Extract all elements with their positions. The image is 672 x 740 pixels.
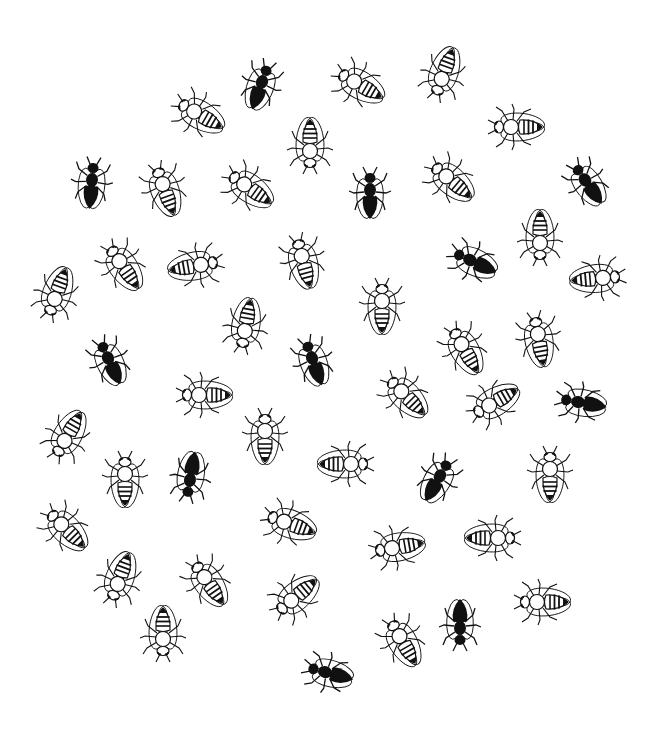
striped-bee-icon bbox=[566, 253, 628, 304]
striped-bee-icon bbox=[287, 116, 333, 174]
striped-bee-icon bbox=[87, 229, 158, 303]
striped-bee-icon bbox=[488, 104, 546, 150]
striped-bee-icon bbox=[133, 155, 196, 225]
dark-ant-icon bbox=[165, 447, 215, 506]
striped-bee-icon bbox=[25, 258, 88, 328]
striped-bee-icon bbox=[369, 359, 442, 432]
striped-bee-icon bbox=[514, 579, 572, 625]
striped-bee-icon bbox=[163, 80, 236, 149]
striped-bee-icon bbox=[323, 50, 396, 119]
dark-ant-icon bbox=[552, 377, 611, 427]
dark-ant-icon bbox=[439, 599, 481, 651]
striped-bee-icon bbox=[274, 228, 333, 296]
dark-ant-icon bbox=[407, 446, 470, 512]
striped-bee-icon bbox=[527, 446, 573, 504]
dark-ant-icon bbox=[297, 646, 358, 700]
striped-bee-icon bbox=[517, 208, 563, 266]
striped-bee-icon bbox=[140, 604, 186, 662]
striped-bee-icon bbox=[414, 144, 488, 216]
striped-bee-icon bbox=[430, 313, 499, 386]
insect-illustration bbox=[0, 0, 672, 740]
striped-bee-icon bbox=[511, 307, 566, 372]
striped-bee-icon bbox=[163, 238, 228, 293]
dark-ant-icon bbox=[349, 167, 391, 219]
dark-ant-icon bbox=[555, 149, 619, 216]
striped-bee-icon bbox=[176, 372, 234, 418]
dark-ant-icon bbox=[79, 328, 139, 393]
dark-ant-icon bbox=[440, 231, 505, 291]
striped-bee-icon bbox=[218, 293, 273, 358]
dark-ant-icon bbox=[232, 53, 289, 117]
striped-bee-icon bbox=[365, 519, 430, 574]
striped-bee-icon bbox=[368, 605, 437, 678]
striped-bee-icon bbox=[316, 441, 374, 487]
striped-bee-icon bbox=[255, 492, 325, 555]
striped-bee-icon bbox=[259, 561, 333, 633]
striped-bee-icon bbox=[359, 278, 405, 336]
insect-swarm bbox=[25, 38, 628, 699]
striped-bee-icon bbox=[172, 545, 243, 619]
striped-bee-icon bbox=[463, 515, 521, 561]
dark-ant-icon bbox=[69, 155, 115, 211]
striped-bee-icon bbox=[33, 399, 102, 472]
striped-bee-icon bbox=[102, 451, 148, 509]
striped-bee-icon bbox=[212, 152, 286, 223]
striped-bee-icon bbox=[242, 408, 288, 466]
striped-bee-icon bbox=[412, 38, 475, 108]
striped-bee-icon bbox=[29, 492, 102, 565]
dark-ant-icon bbox=[284, 329, 341, 393]
striped-bee-icon bbox=[88, 543, 151, 613]
striped-bee-icon bbox=[458, 368, 531, 437]
